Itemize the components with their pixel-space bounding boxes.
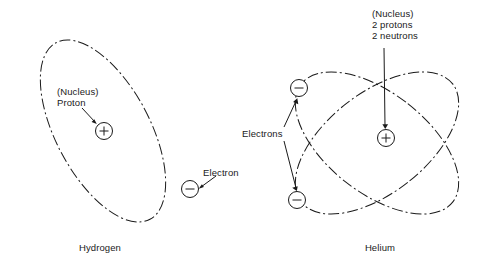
helium-nucleus	[378, 130, 395, 147]
hydrogen-electron	[182, 181, 199, 198]
hydrogen-nucleus-label-line2: Proton	[57, 97, 86, 109]
helium-orbit-path-1	[271, 44, 484, 241]
helium-atom-group	[271, 44, 484, 241]
hydrogen-nucleus-leader	[82, 108, 97, 124]
atom-diagram-figure: (Nucleus) Proton Electron Hydrogen (Nucl…	[0, 0, 486, 270]
helium-orbit-path-2	[271, 44, 484, 241]
helium-electrons-label: Electrons	[242, 128, 283, 140]
hydrogen-nucleus	[96, 123, 113, 140]
helium-electrons-leader-upper	[284, 98, 298, 127]
helium-caption: Helium	[340, 242, 420, 254]
hydrogen-atom-group	[15, 21, 216, 242]
helium-nucleus-label-line2: 2 protons	[372, 19, 413, 31]
helium-nucleus-label-line1: (Nucleus)	[372, 8, 414, 20]
hydrogen-nucleus-label-line1: (Nucleus)	[57, 86, 99, 98]
helium-electron-lower	[289, 192, 306, 209]
helium-electron-upper	[291, 80, 308, 97]
hydrogen-electron-label: Electron	[203, 167, 239, 179]
helium-nucleus-label-line3: 2 neutrons	[372, 30, 418, 42]
hydrogen-caption: Hydrogen	[60, 242, 140, 254]
